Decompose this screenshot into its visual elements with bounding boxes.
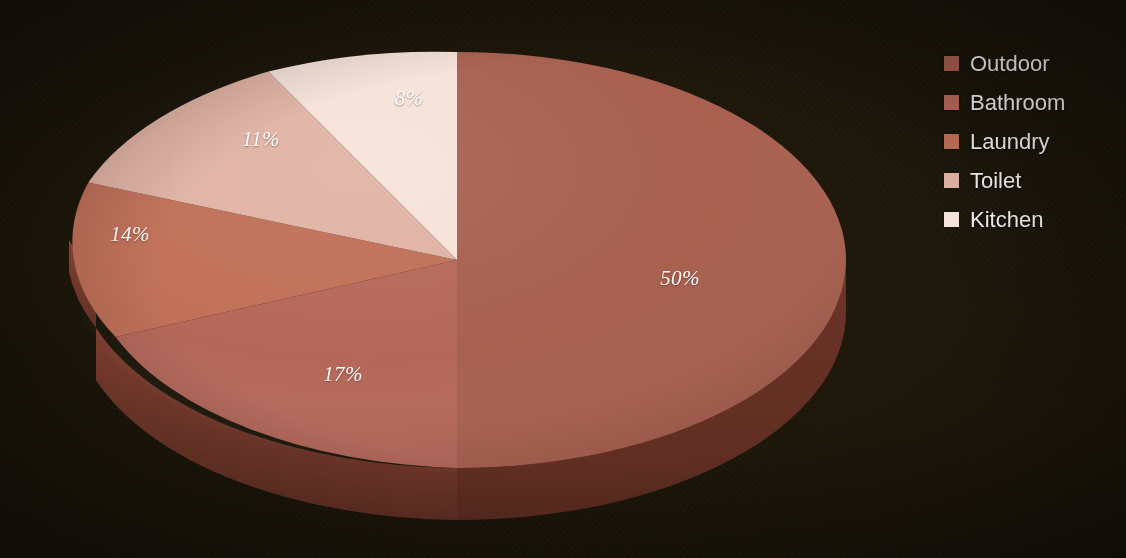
- legend-swatch-icon: [944, 95, 959, 110]
- legend-item-toilet[interactable]: Toilet: [944, 161, 1114, 200]
- legend-label-bathroom: Bathroom: [970, 92, 1065, 114]
- legend-label-toilet: Toilet: [970, 170, 1021, 192]
- legend-label-laundry: Laundry: [970, 131, 1050, 153]
- legend-swatch-icon: [944, 56, 959, 71]
- pie-chart-screenshot: 50% 17% 14% 11% 8% Outdoor Bathroom Laun…: [0, 0, 1126, 558]
- legend-swatch-icon: [944, 173, 959, 188]
- legend-item-kitchen[interactable]: Kitchen: [944, 200, 1114, 239]
- legend-label-kitchen: Kitchen: [970, 209, 1043, 231]
- pie-top-faces: [68, 52, 846, 468]
- legend-swatch-icon: [944, 134, 959, 149]
- legend-item-bathroom[interactable]: Bathroom: [944, 83, 1114, 122]
- legend-item-outdoor[interactable]: Outdoor: [944, 44, 1114, 83]
- legend-swatch-icon: [944, 212, 959, 227]
- legend-item-laundry[interactable]: Laundry: [944, 122, 1114, 161]
- legend-label-outdoor: Outdoor: [970, 53, 1050, 75]
- chart-legend: Outdoor Bathroom Laundry Toilet Kitchen: [944, 44, 1114, 239]
- pie-top-sheen: [68, 52, 846, 468]
